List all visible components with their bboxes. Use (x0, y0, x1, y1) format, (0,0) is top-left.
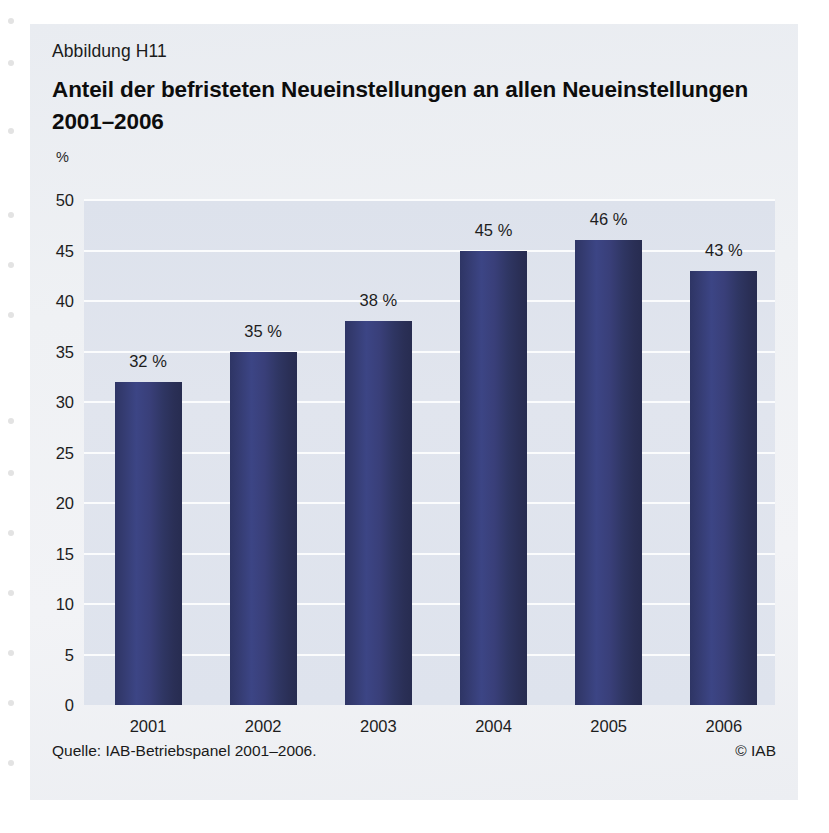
bar (230, 352, 297, 706)
gridline (84, 553, 775, 555)
y-axis-tick-label: 5 (65, 645, 74, 664)
x-axis-tick-label: 2005 (590, 717, 627, 736)
y-axis-tick-label: 0 (65, 696, 74, 715)
scan-speck (8, 650, 14, 656)
scan-speck (8, 60, 14, 66)
scan-speck (8, 128, 14, 134)
y-axis-tick-label: 15 (56, 544, 74, 563)
scan-speck (8, 700, 14, 706)
gridline (84, 199, 775, 201)
scan-speck (8, 470, 14, 476)
bar (115, 382, 182, 705)
bar-value-label: 45 % (475, 221, 513, 240)
y-axis-tick-label: 40 (56, 292, 74, 311)
gridline (84, 603, 775, 605)
x-axis-tick-label: 2001 (130, 717, 167, 736)
bar (345, 321, 412, 705)
bar-value-label: 43 % (705, 241, 743, 260)
bar (575, 240, 642, 705)
copyright-note: © IAB (735, 742, 776, 760)
y-axis-tick-label: 45 (56, 241, 74, 260)
gridline (84, 502, 775, 504)
figure-card: Abbildung H11 Anteil der befristeten Neu… (30, 24, 798, 800)
bar (460, 251, 527, 706)
x-axis-tick-label: 2006 (705, 717, 742, 736)
scan-speck (8, 530, 14, 536)
y-axis-tick-label: 50 (56, 191, 74, 210)
chart-plot-area: 50454035302520151050 32 %35 %38 %45 %46 … (84, 200, 775, 705)
source-note: Quelle: IAB-Betriebspanel 2001–2006. (52, 742, 317, 760)
y-axis-tick-label: 10 (56, 595, 74, 614)
x-axis-tick-label: 2002 (245, 717, 282, 736)
scan-speck (8, 262, 14, 268)
y-axis-tick-label: 25 (56, 443, 74, 462)
scan-speck (8, 18, 14, 24)
bar-value-label: 35 % (244, 322, 282, 341)
scan-speck (8, 760, 14, 766)
x-axis-tick-label: 2003 (360, 717, 397, 736)
x-axis-tick-label: 2004 (475, 717, 512, 736)
scan-speck (8, 590, 14, 596)
gridline (84, 401, 775, 403)
y-axis-tick-label: 35 (56, 342, 74, 361)
bar-value-label: 46 % (590, 210, 628, 229)
y-axis-tick-label: 30 (56, 393, 74, 412)
gridline (84, 351, 775, 353)
chart-plot-wrapper: 50454035302520151050 32 %35 %38 %45 %46 … (30, 24, 798, 800)
gridline (84, 250, 775, 252)
gridline (84, 300, 775, 302)
scan-speck (8, 312, 14, 318)
scan-speck (8, 418, 14, 424)
bar (690, 271, 757, 705)
gridline (84, 654, 775, 656)
scan-speck (8, 212, 14, 218)
y-axis-tick-label: 20 (56, 494, 74, 513)
gridline (84, 452, 775, 454)
bar-value-label: 32 % (129, 352, 167, 371)
scan-page-edge (0, 0, 30, 833)
bar-value-label: 38 % (360, 291, 398, 310)
